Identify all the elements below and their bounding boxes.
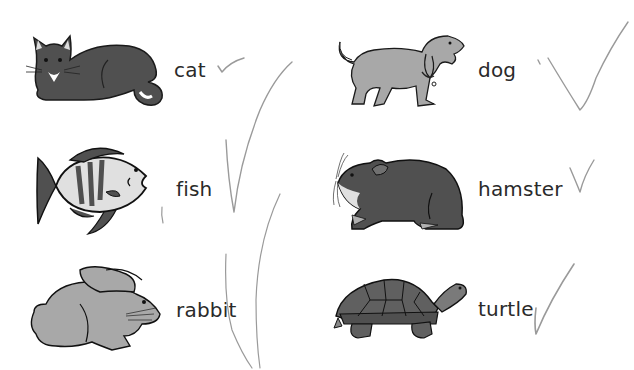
dog-icon bbox=[330, 30, 470, 110]
turtle-icon bbox=[334, 272, 470, 342]
checkmark-rabbit-icon bbox=[222, 190, 282, 370]
animal-label-turtle: turtle bbox=[478, 297, 534, 321]
fish-icon bbox=[34, 140, 154, 240]
animal-label-hamster: hamster bbox=[478, 177, 563, 201]
hamster-icon bbox=[330, 145, 470, 235]
rabbit-icon bbox=[26, 264, 166, 354]
animal-label-fish: fish bbox=[176, 177, 213, 201]
pencil-stroke-icon bbox=[160, 205, 166, 225]
checkmark-hamster-icon bbox=[568, 158, 598, 196]
checkmark-turtle-icon bbox=[530, 260, 578, 340]
cat-icon bbox=[24, 30, 169, 110]
animal-label-dog: dog bbox=[478, 58, 516, 82]
animal-label-cat: cat bbox=[174, 58, 206, 82]
checkmark-dog-icon bbox=[536, 18, 631, 118]
